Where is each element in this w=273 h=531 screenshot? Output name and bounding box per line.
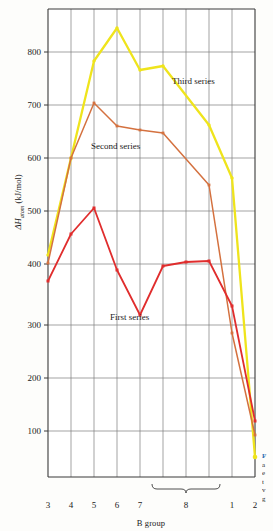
caption-line: t xyxy=(262,478,273,487)
x-tick-labels: 3 4 5 6 7 8 1 2 xyxy=(46,500,258,510)
chart-plot-area: 800 700 600 500 400 300 200 100 3 4 5 6 … xyxy=(0,0,273,531)
chart-figure: 800 700 600 500 400 300 200 100 3 4 5 6 … xyxy=(0,0,273,531)
x-tick-label: 5 xyxy=(92,500,97,510)
annotation-first-series: First series xyxy=(110,312,150,322)
y-tick-label: 800 xyxy=(28,47,42,57)
caption-line: v xyxy=(262,486,273,495)
y-tick-label: 600 xyxy=(28,153,42,163)
figure-caption: F a e t v g xyxy=(262,452,273,504)
y-tick-label: 100 xyxy=(28,426,42,436)
group8-brace xyxy=(152,484,220,493)
x-tick-label: 7 xyxy=(138,500,143,510)
x-axis-title: B group xyxy=(137,518,165,528)
y-tick-label: 400 xyxy=(28,259,42,269)
x-tick-label: 4 xyxy=(69,500,74,510)
annotation-third-series: Third series xyxy=(172,76,215,86)
x-tick-label-group8: 8 xyxy=(184,500,189,510)
y-tick-label: 500 xyxy=(28,206,42,216)
y-tick-label: 200 xyxy=(28,373,42,383)
caption-line: F xyxy=(262,452,273,461)
caption-line: g xyxy=(262,495,273,504)
x-tick-label: 6 xyxy=(115,500,120,510)
caption-line: a xyxy=(262,461,273,470)
x-tick-label: 1 xyxy=(230,500,235,510)
plot-background xyxy=(48,9,255,477)
y-tick-marks xyxy=(44,52,48,431)
caption-line: e xyxy=(262,469,273,478)
y-tick-label: 300 xyxy=(28,320,42,330)
y-tick-label: 700 xyxy=(28,100,42,110)
x-tick-label: 2 xyxy=(253,500,258,510)
annotation-second-series: Second series xyxy=(91,141,141,151)
x-tick-label: 3 xyxy=(46,500,51,510)
y-tick-labels: 800 700 600 500 400 300 200 100 xyxy=(28,47,42,436)
